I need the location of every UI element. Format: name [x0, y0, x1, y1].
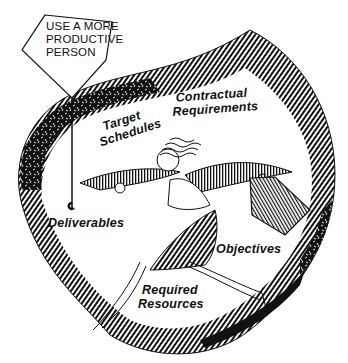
sign-line-3: PERSON — [46, 46, 123, 59]
figure-head — [157, 149, 179, 171]
label-objectives: Objectives — [216, 242, 281, 256]
label-line: Required — [138, 283, 204, 297]
label-line: Objectives — [216, 242, 281, 256]
figure-hand — [115, 183, 125, 193]
label-line: Deliverables — [48, 216, 124, 230]
sign-line-2: PRODUCTIVE — [46, 33, 123, 46]
label-deliverables: Deliverables — [48, 216, 124, 230]
label-line: Resources — [138, 297, 204, 311]
label-contractual-requirements: Contractual Requirements — [171, 85, 259, 119]
sign-text: USE A MORE PRODUCTIVE PERSON — [46, 20, 123, 59]
label-required-resources: Required Resources — [138, 283, 204, 311]
sign-line-1: USE A MORE — [46, 20, 123, 33]
